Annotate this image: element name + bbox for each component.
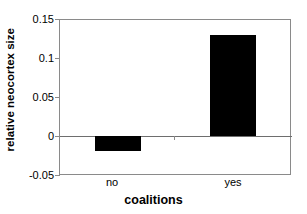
- y-tick-label-0p05: 0.05: [33, 92, 54, 103]
- y-axis-title: relative neocortex size: [0, 0, 22, 180]
- y-tick-label-0: 0: [48, 131, 54, 142]
- x-tick-label-yes: yes: [217, 177, 249, 188]
- y-tick-label-0p10: 0.1: [39, 53, 54, 64]
- y-tick-label-0p15: 0.15: [33, 14, 54, 25]
- x-tick-label-no: no: [96, 177, 128, 188]
- plot-area: [59, 19, 291, 175]
- bar-yes: [210, 35, 256, 136]
- bar-no: [95, 136, 141, 151]
- x-axis-title: coalitions: [0, 194, 307, 207]
- y-axis-title-text: relative neocortex size: [5, 28, 17, 151]
- bar-chart-figure: relative neocortex size 0.15 0.1 0.05 0 …: [0, 0, 307, 214]
- y-tick-label-neg0p05: -0.05: [29, 170, 54, 181]
- x-tick-mark-center: [174, 136, 175, 140]
- y-tick-mark-neg0p05: [55, 175, 60, 176]
